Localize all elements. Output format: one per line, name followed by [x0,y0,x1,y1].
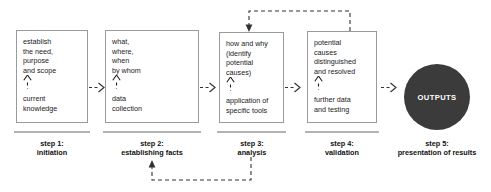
step-2-top-text: what, where, when by whom [112,37,194,75]
step-5-caption: step 5: presentation of results [373,139,491,158]
step-2-caption: step 2: establishing facts [100,139,204,158]
step-3-internal-up-arrow [226,77,235,92]
step-3-underline-bar [217,131,286,133]
outputs-circle[interactable]: OUTPUTS [404,64,470,130]
step-2-bottom-text: data collection [112,94,194,113]
step-2-underline-bar [103,131,201,133]
step-1-top-text: establish the need, purpose and scope [23,37,83,75]
step-3-bottom-text: application of specific tools [226,96,279,115]
step-2-internal-up-arrow [112,75,121,90]
step-4-top-text: potential causes distinguished and resol… [314,38,372,76]
arrow-step4-outputs [381,82,399,93]
process-diagram: establish the need, purpose and scope cu… [0,0,491,192]
step-1-box[interactable]: establish the need, purpose and scope cu… [16,30,88,123]
step-1-underline-bar [14,131,90,133]
step-4-underline-bar [305,131,379,133]
outputs-label: OUTPUTS [417,93,456,102]
step-2-box[interactable]: what, where, when by whom data collectio… [105,30,199,123]
step-3-top-text: how and why (identify potential causes) [226,39,279,77]
step-4-bottom-text: further data and testing [314,95,372,114]
step-1-bottom-text: current knowledge [23,94,83,113]
arrow-step3-step4 [285,82,303,93]
step-4-internal-up-arrow [314,76,323,91]
step-3-box[interactable]: how and why (identify potential causes) … [219,32,284,123]
step-1-caption: step 1: initiation [4,139,100,158]
step-4-box[interactable]: potential causes distinguished and resol… [307,31,377,123]
feedback-step3-to-step2 [149,157,251,180]
step-3-caption: step 3: analysis [206,139,298,158]
step-1-internal-up-arrow [23,75,32,90]
arrow-step2-step3 [200,82,218,93]
